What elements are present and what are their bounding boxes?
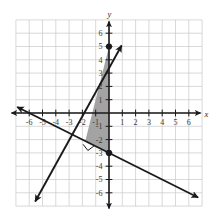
x-axis-label: x — [204, 109, 209, 119]
y-tick-label: 4 — [99, 56, 103, 65]
x-tick-label: 5 — [174, 118, 178, 127]
x-tick-label: -3 — [66, 118, 73, 127]
y-tick-label: 5 — [99, 42, 103, 51]
coordinate-graph: -6 -5 -4 -3 -2 -1 1 2 3 4 5 6 6 5 4 3 2 … — [0, 0, 216, 223]
y-tick-label: 3 — [99, 69, 103, 78]
x-tick-label: -6 — [26, 118, 33, 127]
x-tick-label: 6 — [187, 118, 191, 127]
point-marker-y-intercept-lower — [106, 150, 112, 156]
x-tick-label: 1 — [120, 118, 124, 127]
y-tick-label: -5 — [96, 175, 103, 184]
y-tick-label: -4 — [96, 162, 103, 171]
y-axis-label: y — [107, 9, 112, 19]
y-tick-label: -2 — [96, 136, 103, 145]
x-tick-label: 4 — [160, 118, 164, 127]
x-tick-label: 3 — [147, 118, 151, 127]
graph-canvas: -6 -5 -4 -3 -2 -1 1 2 3 4 5 6 6 5 4 3 2 … — [0, 0, 216, 223]
point-marker-y-intercept-upper — [106, 43, 112, 49]
y-tick-label: 1 — [99, 96, 103, 105]
y-tick-label: -6 — [96, 189, 103, 198]
y-tick-label: 6 — [99, 29, 103, 38]
x-tick-label: 2 — [134, 118, 138, 127]
y-tick-label: -1 — [96, 122, 103, 131]
